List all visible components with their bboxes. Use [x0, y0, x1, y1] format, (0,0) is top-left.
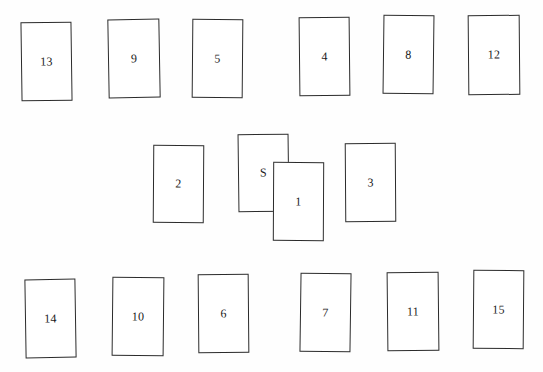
card-8[interactable]: 8	[383, 15, 435, 95]
card-3[interactable]: 3	[345, 143, 397, 222]
card-label: 4	[321, 50, 327, 62]
card-label: 12	[488, 48, 501, 60]
card-label: 9	[131, 52, 137, 64]
card-label: 15	[492, 303, 505, 315]
card-15[interactable]: 15	[473, 270, 525, 349]
card-10[interactable]: 10	[112, 277, 165, 357]
card-9[interactable]: 9	[107, 19, 160, 99]
card-label: 5	[214, 52, 220, 64]
card-5[interactable]: 5	[192, 19, 244, 98]
card-label: 6	[220, 307, 226, 319]
card-14[interactable]: 14	[24, 279, 76, 359]
card-label: 11	[407, 305, 419, 317]
card-2[interactable]: 2	[153, 145, 205, 223]
card-label: 2	[175, 177, 181, 189]
card-6[interactable]: 6	[198, 274, 250, 353]
card-label: 8	[405, 48, 411, 60]
card-7[interactable]: 7	[299, 273, 351, 353]
card-13[interactable]: 13	[20, 22, 72, 102]
card-label: 10	[132, 310, 145, 322]
card-label: 13	[40, 55, 53, 67]
card-11[interactable]: 11	[387, 272, 440, 352]
card-4[interactable]: 4	[299, 17, 351, 97]
card-1[interactable]: 1	[273, 162, 324, 241]
card-layout-canvas: 139548122S131410671115	[0, 0, 543, 372]
card-label: 3	[367, 176, 373, 188]
card-label: 7	[322, 306, 328, 318]
card-label: S	[260, 166, 267, 178]
card-label: 1	[295, 195, 301, 207]
card-label: 14	[44, 312, 57, 324]
card-12[interactable]: 12	[468, 15, 521, 95]
